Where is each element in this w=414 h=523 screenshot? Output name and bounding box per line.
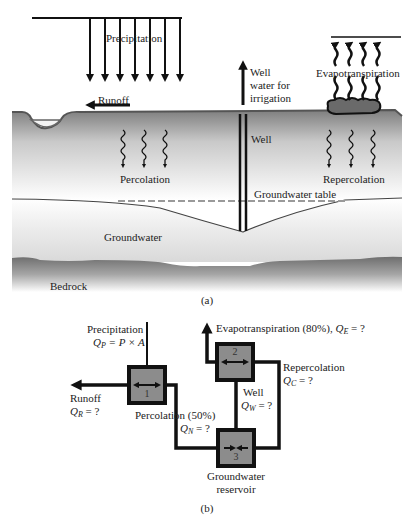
figure-b-caption: (b) [201, 502, 214, 514]
figure-a [12, 18, 402, 292]
groundwater-zone [12, 198, 402, 262]
b-runoff-label: Runoff [70, 392, 101, 404]
precipitation-arrows [32, 18, 182, 78]
runoff-label: Runoff [98, 94, 129, 106]
bedrock-label: Bedrock [50, 280, 87, 292]
groundwater-reservoir-label-2: reservoir [216, 483, 255, 495]
evapotranspiration-label: Evapotranspiration [316, 67, 400, 79]
node-2-number: 2 [233, 346, 238, 358]
b-evapotranspiration-label: Evapotranspiration (80%), QE = ? [216, 322, 365, 338]
groundwater-reservoir-label-1: Groundwater [207, 470, 265, 482]
repercolation-label: Repercolation [323, 173, 385, 185]
b-well-formula: QW = ? [241, 399, 272, 415]
node-3-number: 3 [234, 451, 239, 463]
precipitation-label: Precipitation [106, 32, 162, 44]
groundwater-table-label: Groundwater table [254, 188, 336, 200]
b-runoff-formula: QR = ? [70, 405, 99, 421]
b-precipitation-formula: QP = P × A [93, 336, 145, 352]
well-water-label-2: water for [250, 79, 290, 91]
well-label: Well [251, 133, 272, 145]
well-water-label-1: Well [250, 66, 271, 78]
figure-a-caption: (a) [201, 294, 213, 306]
well-water-label-3: irrigation [250, 92, 291, 104]
b-percolation-label: Percolation (50%) [135, 409, 215, 421]
b-well-label: Well [243, 386, 264, 398]
b-percolation-formula: QN = ? [180, 422, 210, 438]
b-repercolation-label: Repercolation [283, 361, 345, 373]
b-repercolation-formula: QC = ? [283, 374, 313, 390]
b-precipitation-label: Precipitation [87, 323, 143, 335]
node-1-number: 1 [145, 388, 150, 400]
soil-layer [12, 110, 402, 200]
percolation-label: Percolation [120, 173, 170, 185]
vegetation-icon [328, 98, 381, 114]
groundwater-label: Groundwater [104, 231, 162, 243]
